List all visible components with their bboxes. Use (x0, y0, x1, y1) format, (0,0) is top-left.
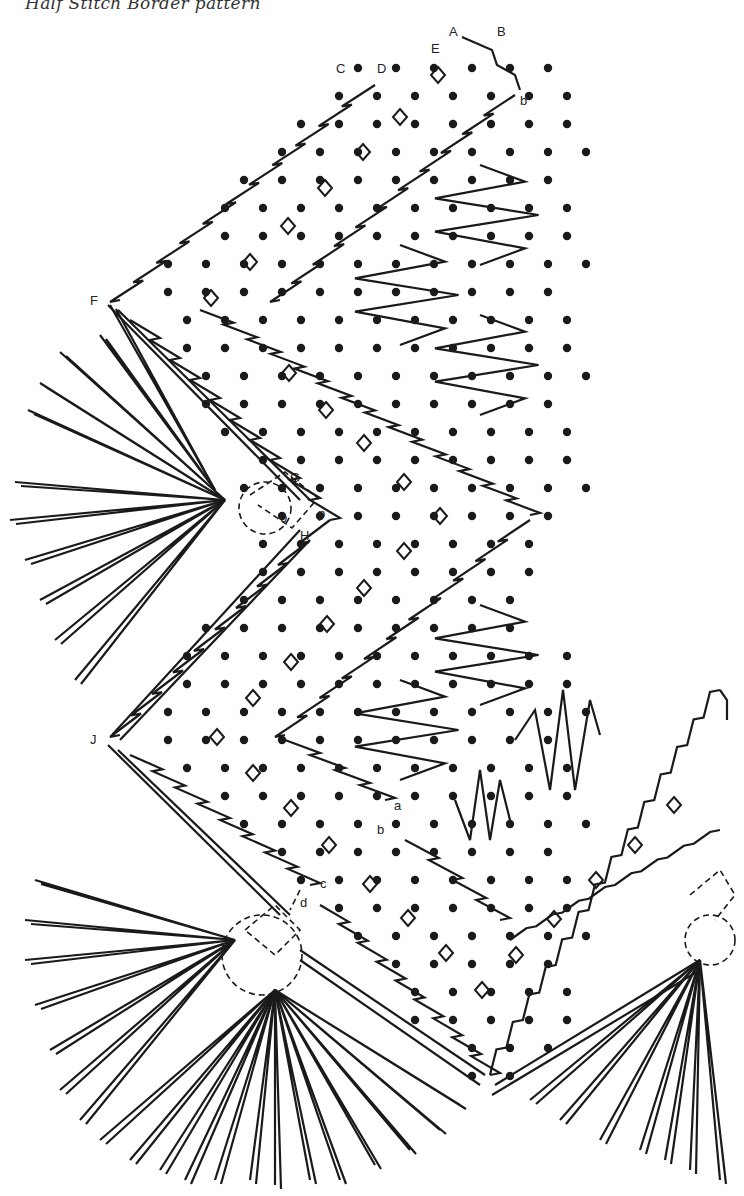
pin-hole (392, 708, 400, 716)
pin-hole (278, 288, 286, 296)
pin-hole (506, 960, 514, 968)
diamond-marker (667, 797, 681, 813)
pin-hole (525, 428, 533, 436)
pin-hole (411, 344, 419, 352)
pin-hole (506, 736, 514, 744)
pin-hole (373, 568, 381, 576)
pin-hole (582, 932, 590, 940)
pin-hole (582, 708, 590, 716)
pin-hole (525, 232, 533, 240)
pin-hole (392, 400, 400, 408)
pin-hole (487, 344, 495, 352)
pin-hole (468, 960, 476, 968)
pin-hole (544, 176, 552, 184)
pin-hole (563, 764, 571, 772)
pin-hole (392, 932, 400, 940)
pin-hole (449, 344, 457, 352)
pin-hole (411, 204, 419, 212)
pin-hole (430, 596, 438, 604)
pin-hole (221, 204, 229, 212)
pin-hole (278, 148, 286, 156)
pin-hole (335, 568, 343, 576)
pin-hole (487, 904, 495, 912)
pin-hole (506, 512, 514, 520)
pin-hole (449, 988, 457, 996)
pin-hole (582, 820, 590, 828)
pin-hole (506, 148, 514, 156)
pin-hole (373, 316, 381, 324)
pin-hole (373, 456, 381, 464)
point-label: a (394, 798, 402, 813)
pin-hole (373, 764, 381, 772)
pin-hole (506, 372, 514, 380)
pin-hole (316, 484, 324, 492)
pin-hole (506, 596, 514, 604)
pin-hole (259, 652, 267, 660)
pin-hole (297, 680, 305, 688)
point-label: p (318, 506, 325, 521)
pin-hole (164, 736, 172, 744)
lace-pricking-diagram: ABECDbFGopHJabcd (0, 0, 744, 1196)
pin-hole (468, 736, 476, 744)
pin-hole (411, 792, 419, 800)
pin-hole (468, 400, 476, 408)
pin-hole (240, 260, 248, 268)
pin-hole (487, 568, 495, 576)
pin-hole (563, 204, 571, 212)
pin-hole (202, 400, 210, 408)
pin-hole (449, 792, 457, 800)
pin-hole (468, 148, 476, 156)
pin-hole (468, 848, 476, 856)
point-label: H (300, 528, 309, 543)
diamond-marker (439, 945, 453, 961)
diamond-marker (393, 109, 407, 125)
pin-hole (563, 232, 571, 240)
pin-hole (240, 736, 248, 744)
pin-hole (373, 652, 381, 660)
pin-hole (506, 932, 514, 940)
pin-hole (297, 316, 305, 324)
point-label: C (336, 61, 345, 76)
pin-hole (335, 876, 343, 884)
pin-hole (297, 204, 305, 212)
pin-hole (392, 484, 400, 492)
diamond-marker (357, 580, 371, 596)
pin-hole (411, 876, 419, 884)
pin-hole (468, 512, 476, 520)
pin-hole (221, 792, 229, 800)
pin-hole (582, 148, 590, 156)
pin-hole (449, 120, 457, 128)
pin-hole (525, 316, 533, 324)
pin-hole (525, 792, 533, 800)
pin-hole (430, 176, 438, 184)
pin-hole (411, 428, 419, 436)
pin-hole (525, 764, 533, 772)
pin-hole (392, 64, 400, 72)
pin-hole (221, 652, 229, 660)
diamond-marker (284, 800, 298, 816)
pin-hole (563, 680, 571, 688)
pin-hole (544, 1044, 552, 1052)
diamond-marker (357, 435, 371, 451)
pin-hole (487, 456, 495, 464)
pin-hole (354, 848, 362, 856)
pin-hole (259, 568, 267, 576)
pin-hole (297, 792, 305, 800)
pin-hole (278, 736, 286, 744)
pin-hole (506, 1044, 514, 1052)
pin-hole (316, 848, 324, 856)
pin-hole (487, 92, 495, 100)
thread-lines (10, 37, 727, 1189)
point-label: G (290, 470, 300, 485)
pin-hole (544, 736, 552, 744)
pin-hole (392, 148, 400, 156)
pin-hole (411, 540, 419, 548)
pin-hole (430, 372, 438, 380)
pin-hole (525, 540, 533, 548)
pin-hole (354, 400, 362, 408)
pin-hole (468, 624, 476, 632)
point-label: E (431, 41, 440, 56)
pin-hole (582, 260, 590, 268)
pin-hole (449, 904, 457, 912)
pin-hole (183, 680, 191, 688)
